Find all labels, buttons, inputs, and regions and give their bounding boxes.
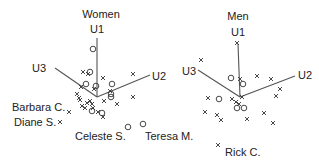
x-marker: [269, 77, 273, 81]
men-u2-label: U2: [298, 69, 312, 81]
women-u2-axis: [97, 75, 150, 97]
men-u3-label: U3: [182, 65, 196, 77]
label-diane: Diane S.: [14, 116, 56, 128]
circle-marker: [216, 96, 222, 102]
x-marker: [115, 102, 119, 106]
circle-marker: [109, 81, 115, 87]
x-marker: [75, 92, 79, 96]
circle-marker: [234, 105, 240, 111]
x-marker: [58, 120, 62, 124]
circle-marker: [241, 105, 247, 111]
men-u1-label: U1: [231, 26, 245, 38]
x-marker: [274, 94, 278, 98]
circle-marker: [90, 46, 96, 52]
women-points: [58, 46, 146, 130]
label-barbara: Barbara C.: [12, 101, 65, 113]
x-marker: [278, 87, 282, 91]
x-marker: [203, 110, 207, 114]
women-panel: Women U1 U3 U2 Barbara C. Diane S. Celes…: [12, 8, 193, 142]
men-u3-axis: [198, 70, 240, 97]
circle-marker: [99, 110, 105, 116]
circle-marker: [83, 81, 89, 87]
men-u2-axis: [240, 76, 295, 97]
x-marker: [262, 111, 266, 115]
biplot-figure: Women U1 U3 U2 Barbara C. Diane S. Celes…: [0, 0, 319, 162]
x-marker: [81, 70, 85, 74]
x-marker: [255, 74, 259, 78]
x-marker: [230, 97, 234, 101]
x-marker: [199, 58, 203, 62]
x-marker: [101, 76, 105, 80]
x-marker: [235, 41, 239, 45]
men-points: [199, 41, 282, 147]
x-marker: [67, 110, 71, 114]
label-rick: Rick C.: [225, 146, 260, 158]
x-marker: [216, 143, 220, 147]
x-marker: [131, 95, 135, 99]
x-marker: [215, 113, 219, 117]
women-title: Women: [82, 8, 120, 20]
x-marker: [102, 99, 106, 103]
label-teresa: Teresa M.: [145, 130, 193, 142]
x-marker: [219, 118, 223, 122]
x-marker: [271, 121, 275, 125]
women-u3-label: U3: [32, 62, 46, 74]
x-marker: [245, 117, 249, 121]
men-panel: Men U1 U3 U2 Rick C.: [182, 10, 312, 158]
x-marker: [238, 77, 242, 81]
women-u1-label: U1: [90, 23, 104, 35]
men-title: Men: [227, 10, 248, 22]
men-u1-axis: [238, 44, 240, 97]
circle-marker: [125, 124, 131, 130]
circle-marker: [140, 121, 146, 127]
women-u2-label: U2: [152, 70, 166, 82]
circle-marker: [228, 75, 234, 81]
circle-marker: [240, 81, 246, 87]
label-celeste: Celeste S.: [75, 130, 126, 142]
x-marker: [86, 72, 90, 76]
x-marker: [131, 72, 135, 76]
x-marker: [206, 96, 210, 100]
circle-marker: [93, 83, 99, 89]
